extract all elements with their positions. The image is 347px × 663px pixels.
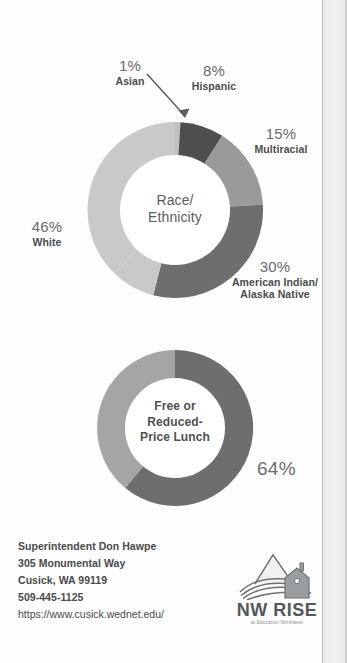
- label-american-indian-name-line-1: American Indian/: [228, 276, 322, 288]
- label-hispanic: 8% Hispanic: [176, 62, 252, 92]
- schoolhouse-chimney: [300, 563, 303, 571]
- contact-phone: 509-445-1125: [18, 589, 233, 606]
- label-white-pct: 46%: [14, 218, 80, 236]
- logo-tagline: at Education Northwest: [234, 620, 320, 625]
- label-asian-name: Asian: [98, 75, 162, 87]
- nw-rise-logo: NW RISE at Education Northwest: [234, 548, 320, 632]
- contact-block: Superintendent Don Hawpe 305 Monumental …: [18, 538, 233, 623]
- label-asian: 1% Asian: [98, 57, 162, 87]
- label-hispanic-name: Hispanic: [176, 80, 252, 92]
- schoolhouse-window: [294, 578, 299, 583]
- logo-wordmark: NW RISE: [234, 600, 320, 621]
- label-asian-pct: 1%: [98, 57, 162, 75]
- label-lunch-pct: 64%: [257, 458, 296, 480]
- contact-city-state-zip: Cusick, WA 99119: [18, 572, 233, 589]
- label-american-indian-alaska-native: 30% American Indian/ Alaska Native: [228, 258, 322, 300]
- lunch-chart-center-label: Free or Reduced- Price Lunch: [118, 399, 232, 446]
- label-hispanic-pct: 8%: [176, 62, 252, 80]
- lunch-center-line-1: Free or: [154, 399, 195, 413]
- page-gutter-strip: [323, 0, 347, 663]
- race-center-line-1: Race/: [156, 192, 193, 208]
- mountain-schoolhouse-icon: [237, 548, 317, 600]
- race-chart-center-label: Race/ Ethnicity: [115, 192, 235, 226]
- label-white: 46% White: [14, 218, 80, 248]
- lunch-center-line-3: Price Lunch: [140, 430, 210, 444]
- label-american-indian-name-line-2: Alaska Native: [228, 288, 322, 300]
- label-multiracial-name: Multiracial: [240, 143, 322, 155]
- contact-street: 305 Monumental Way: [18, 555, 233, 572]
- contact-superintendent: Superintendent Don Hawpe: [18, 538, 233, 555]
- label-multiracial: 15% Multiracial: [240, 125, 322, 155]
- label-american-indian-pct: 30%: [228, 258, 322, 276]
- content-area: Race/ Ethnicity 1% Asian 8% Hispanic 15%…: [0, 0, 322, 663]
- label-multiracial-pct: 15%: [240, 125, 322, 143]
- race-center-line-2: Ethnicity: [148, 209, 202, 225]
- lunch-center-line-2: Reduced-: [147, 415, 202, 429]
- infographic-page: Race/ Ethnicity 1% Asian 8% Hispanic 15%…: [0, 0, 347, 663]
- contact-website-url[interactable]: https://www.cusick.wednet.edu/: [18, 606, 233, 623]
- label-white-name: White: [14, 236, 80, 248]
